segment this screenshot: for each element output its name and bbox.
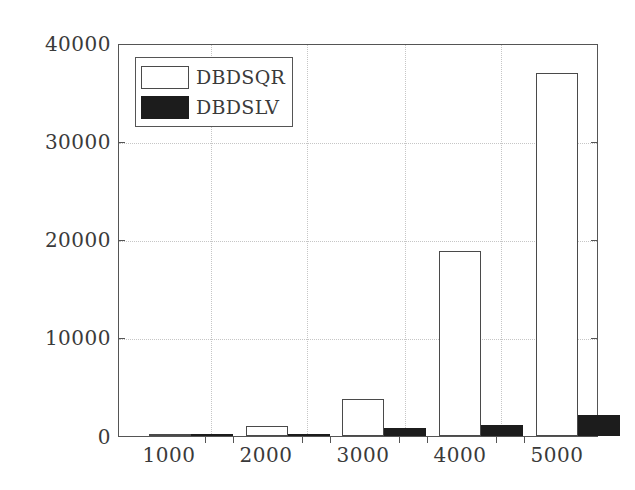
xtick-mark-6 (427, 437, 428, 443)
bar-dbdsqr-5000 (536, 73, 578, 436)
legend-label-dbdsqr: DBDSQR (196, 66, 285, 88)
gridline-20000 (119, 241, 597, 242)
ytick-label-0: 0 (98, 425, 111, 449)
ytick-label-10000: 10000 (45, 326, 111, 350)
xtick-mark-5 (399, 437, 400, 443)
bar-dbdslv-2000 (288, 434, 330, 436)
bar-chart-figure: 40000 30000 20000 10000 0 1000 2000 3000… (0, 0, 635, 490)
ytick-mark-right-20000 (591, 240, 598, 241)
legend-label-dbdslv: DBDSLV (196, 96, 279, 118)
gridline-vertical-2 (307, 45, 308, 436)
legend-swatch-dbdsqr (141, 66, 189, 89)
ytick-mark-30000 (118, 142, 125, 143)
xtick-mark-3 (302, 437, 303, 443)
xtick-label-5000: 5000 (531, 443, 584, 467)
bar-dbdsqr-1000 (149, 434, 191, 436)
xtick-label-4000: 4000 (434, 443, 487, 467)
bar-dbdsqr-4000 (439, 251, 481, 436)
gridline-vertical-3 (405, 45, 406, 436)
ytick-label-30000: 30000 (45, 130, 111, 154)
ytick-mark-20000 (118, 240, 125, 241)
ytick-mark-right-10000 (591, 338, 598, 339)
chart-legend: DBDSQR DBDSLV (135, 57, 293, 127)
xtick-label-2000: 2000 (240, 443, 293, 467)
bar-dbdslv-5000 (578, 415, 620, 436)
ytick-mark-10000 (118, 338, 125, 339)
bar-dbdslv-4000 (481, 425, 523, 436)
ytick-label-20000: 20000 (45, 228, 111, 252)
gridline-vertical-4 (501, 45, 502, 436)
xtick-mark-1 (205, 437, 206, 443)
ytick-label-40000: 40000 (45, 32, 111, 56)
xtick-mark-8 (524, 437, 525, 443)
gridline-30000 (119, 143, 597, 144)
legend-entry-dbdsqr: DBDSQR (141, 62, 287, 92)
bar-dbdsqr-2000 (246, 426, 288, 436)
xtick-mark-4 (330, 437, 331, 443)
xtick-mark-7 (496, 437, 497, 443)
xtick-label-1000: 1000 (143, 443, 196, 467)
bar-dbdsqr-3000 (342, 399, 384, 436)
bar-dbdslv-3000 (384, 428, 426, 436)
xtick-mark-2 (233, 437, 234, 443)
legend-swatch-dbdslv (141, 96, 189, 119)
ytick-mark-right-30000 (591, 142, 598, 143)
legend-entry-dbdslv: DBDSLV (141, 92, 287, 122)
bar-dbdslv-1000 (191, 434, 233, 436)
gridline-10000 (119, 339, 597, 340)
xtick-label-3000: 3000 (337, 443, 390, 467)
